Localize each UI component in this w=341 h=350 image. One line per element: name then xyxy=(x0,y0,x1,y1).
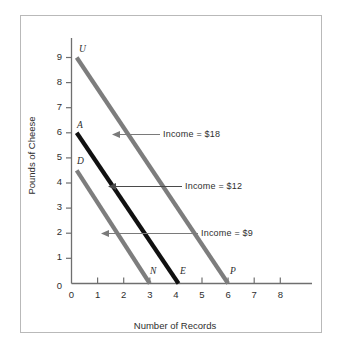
y-tick-label-5: 5 xyxy=(48,151,62,162)
x-tick-label-3: 3 xyxy=(143,289,157,300)
annotation-arrow-income-18 xyxy=(112,131,160,138)
y-axis-title: Pounds of Cheese xyxy=(26,101,37,211)
x-tick-label-8: 8 xyxy=(273,289,287,300)
y-tick-label-4: 4 xyxy=(48,176,62,187)
point-label-e: E xyxy=(180,266,186,276)
x-tick-label-1: 1 xyxy=(91,289,105,300)
point-label-n: N xyxy=(150,266,156,276)
y-tick-label-2: 2 xyxy=(48,226,62,237)
y-tick-label-3: 3 xyxy=(48,201,62,212)
x-tick-label-5: 5 xyxy=(195,289,209,300)
point-label-p: P xyxy=(230,266,236,276)
point-label-u: U xyxy=(79,44,86,54)
y-axis-ticks xyxy=(66,58,72,259)
x-tick-label-7: 7 xyxy=(247,289,261,300)
point-label-a: A xyxy=(77,120,83,130)
annotation-income-18: Income = $18 xyxy=(163,129,220,139)
x-axis-title: Number of Records xyxy=(95,320,255,331)
x-axis-ticks xyxy=(98,278,281,284)
budget-line-income-18 xyxy=(77,58,228,284)
y-tick-label-0: 0 xyxy=(48,280,62,291)
point-label-d: D xyxy=(77,156,84,166)
x-tick-label-2: 2 xyxy=(117,289,131,300)
annotation-income-9: Income = $9 xyxy=(201,228,253,238)
y-tick-label-7: 7 xyxy=(48,101,62,112)
y-tick-label-1: 1 xyxy=(48,251,62,262)
x-tick-label-4: 4 xyxy=(169,289,183,300)
annotation-income-12: Income = $12 xyxy=(185,181,242,191)
y-tick-label-8: 8 xyxy=(48,76,62,87)
annotation-arrow-income-12 xyxy=(108,183,182,190)
budget-line-income-12 xyxy=(77,133,179,284)
x-tick-label-0: 0 xyxy=(65,289,79,300)
x-tick-label-6: 6 xyxy=(221,289,235,300)
figure-container: 9 8 7 6 5 4 3 2 1 0 0 1 2 3 4 5 6 7 8 U … xyxy=(0,0,341,350)
y-tick-label-6: 6 xyxy=(48,126,62,137)
y-tick-label-9: 9 xyxy=(48,51,62,62)
